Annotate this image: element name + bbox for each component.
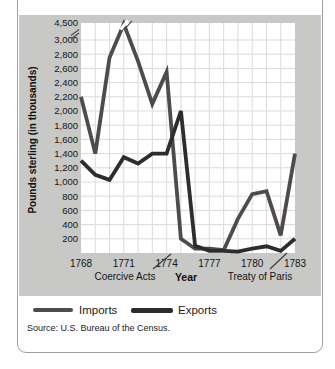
y-tick-label: 200 bbox=[62, 233, 78, 244]
annotation-label: Coercive Acts bbox=[94, 271, 155, 282]
y-tick-label: 2,600 bbox=[54, 63, 78, 74]
y-tick-label: 1,800 bbox=[54, 120, 78, 131]
y-tick-label: 1,600 bbox=[54, 134, 78, 145]
x-tick-label: 1780 bbox=[241, 258, 264, 269]
x-tick-label: 1771 bbox=[113, 258, 136, 269]
y-tick-label: 4,500 bbox=[54, 17, 78, 28]
y-tick-label: 1,000 bbox=[54, 176, 78, 187]
x-axis-title: Year bbox=[175, 271, 197, 283]
y-tick-label: 2,800 bbox=[54, 49, 78, 60]
y-tick-label: 400 bbox=[62, 219, 78, 230]
y-tick-label: 2,400 bbox=[54, 77, 78, 88]
y-tick-label: 2,000 bbox=[54, 105, 78, 116]
imports-legend-line bbox=[33, 308, 73, 312]
x-tick-label: 1783 bbox=[284, 258, 307, 269]
legend-label-imports: Imports bbox=[79, 303, 117, 317]
source-citation: Source: U.S. Bureau of the Census. bbox=[27, 323, 170, 333]
plot-area bbox=[81, 23, 295, 253]
y-tick-label: 1,200 bbox=[54, 162, 78, 173]
y-tick-label: 1,400 bbox=[54, 148, 78, 159]
exports-legend-line bbox=[131, 308, 173, 313]
y-tick-label: 2,200 bbox=[54, 91, 78, 102]
x-tick-label: 1777 bbox=[198, 258, 221, 269]
y-axis-title: Pounds sterling (in thousands) bbox=[27, 66, 38, 213]
trade-line-chart: 4,5003,0002,8002,6002,4002,2002,0001,800… bbox=[0, 0, 335, 369]
x-tick-label: 1768 bbox=[70, 258, 93, 269]
y-tick-label: 600 bbox=[62, 205, 78, 216]
legend-label-exports: Exports bbox=[178, 303, 217, 317]
y-tick-label: 800 bbox=[62, 191, 78, 202]
annotation-label: Treaty of Paris bbox=[228, 271, 293, 282]
